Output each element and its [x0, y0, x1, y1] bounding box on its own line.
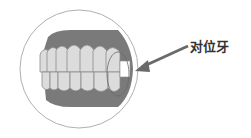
teeth-illustration [0, 0, 251, 138]
dental-occlusion-diagram: 对位牙 [0, 0, 251, 138]
lower-teeth [42, 72, 120, 92]
upper-teeth [40, 45, 120, 72]
opposing-tooth-label: 对位牙 [190, 36, 229, 55]
pointer-arrow-line [142, 46, 188, 67]
